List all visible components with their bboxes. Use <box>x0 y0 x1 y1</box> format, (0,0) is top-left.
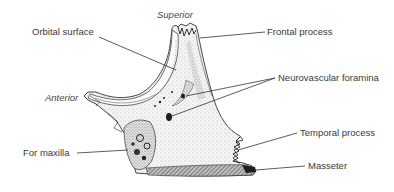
leader-orbital-surface <box>99 37 176 70</box>
label-orbital-surface: Orbital surface <box>32 26 94 37</box>
leader-for-maxilla <box>77 150 128 153</box>
leader-frontal-process <box>200 32 265 38</box>
label-temporal-process: Temporal process <box>300 127 375 138</box>
foramen-2 <box>166 113 172 121</box>
label-neurovascular-foramina: Neurovascular foramina <box>278 72 379 83</box>
leader-temporal-process <box>238 133 297 150</box>
label-for-maxilla: For maxilla <box>23 147 69 158</box>
anatomical-figure: Superior Anterior Orbital surface Fronta… <box>0 0 394 192</box>
label-frontal-process: Frontal process <box>267 26 332 37</box>
foramen-1 <box>181 94 185 99</box>
label-masseter: Masseter <box>308 160 347 171</box>
leader-masseter <box>256 166 305 170</box>
label-anterior: Anterior <box>45 92 78 103</box>
label-superior: Superior <box>157 9 193 20</box>
maxillary-surface <box>124 120 156 170</box>
